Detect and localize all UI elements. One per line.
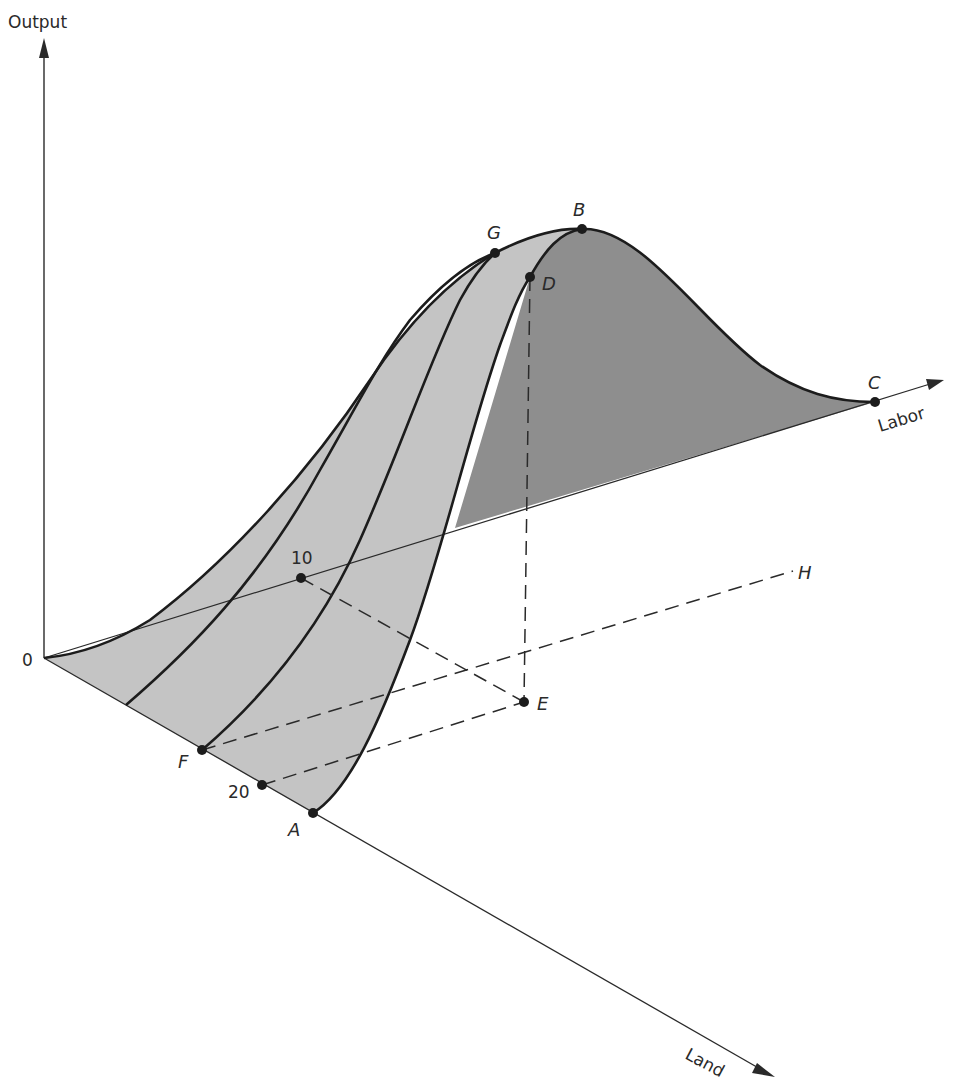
point-a bbox=[308, 808, 318, 818]
point-labor-10 bbox=[296, 573, 306, 583]
labor-tick-10: 10 bbox=[291, 548, 313, 568]
point-land-20 bbox=[257, 780, 267, 790]
label-b: B bbox=[573, 199, 585, 220]
point-g bbox=[490, 248, 500, 258]
surface-front-face bbox=[44, 229, 582, 813]
label-g: G bbox=[487, 222, 501, 243]
label-d: D bbox=[542, 273, 556, 294]
label-h: H bbox=[798, 562, 812, 583]
point-d bbox=[525, 272, 535, 282]
land-axis-label: Land bbox=[682, 1044, 728, 1081]
point-c bbox=[870, 397, 880, 407]
point-e bbox=[519, 697, 529, 707]
point-b bbox=[577, 224, 587, 234]
production-surface-diagram: Output 0 Labor Land 10 20 A B C D E F G … bbox=[0, 0, 960, 1083]
output-axis-label: Output bbox=[8, 12, 67, 32]
output-axis-arrow-icon bbox=[39, 38, 49, 58]
land-axis-arrow-icon bbox=[752, 1063, 775, 1077]
origin-label: 0 bbox=[22, 650, 33, 670]
label-f: F bbox=[178, 751, 189, 772]
label-e: E bbox=[537, 693, 549, 714]
land-axis bbox=[44, 658, 762, 1070]
labor-axis-label: Labor bbox=[875, 403, 927, 436]
labor-axis-arrow-icon bbox=[926, 379, 944, 390]
label-a: A bbox=[287, 819, 300, 840]
label-c: C bbox=[868, 372, 881, 393]
point-f bbox=[197, 745, 207, 755]
land-tick-20: 20 bbox=[228, 782, 250, 802]
